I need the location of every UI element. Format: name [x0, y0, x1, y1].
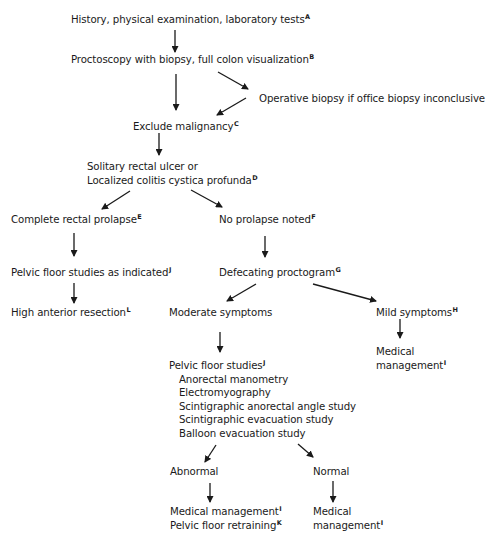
arrow-proctoscopy-to-operative [218, 72, 248, 89]
node-pelvic-floor-studies: Pelvic floor studiesJ Anorectal manometr… [169, 359, 356, 440]
node-label: Exclude malignancy [133, 121, 233, 132]
node-normal-outcome: Medical managementI [313, 505, 383, 532]
node-label: Operative biopsy if office biopsy inconc… [259, 93, 485, 104]
arrow-studies-to-abnormal [205, 445, 216, 462]
node-label: Normal [313, 466, 349, 477]
node-label: No prolapse noted [219, 214, 311, 225]
node-label: Defecating proctogram [219, 267, 335, 278]
arrow-proctogram-to-moderate [227, 284, 256, 301]
arrow-solitary-to-complete [102, 191, 130, 209]
node-moderate-symptoms: Moderate symptoms [169, 306, 272, 320]
arrow-operative-to-exclude [217, 98, 246, 115]
node-abnormal-outcome: Medical managementI Pelvic floor retrain… [170, 505, 282, 532]
footnote-marker: B [309, 53, 314, 61]
footnote-marker: L [126, 306, 130, 314]
footnote-marker: J [169, 266, 171, 274]
footnote-marker: D [252, 174, 257, 182]
node-label: Proctoscopy with biopsy, full colon visu… [71, 54, 309, 65]
node-history: History, physical examination, laborator… [71, 13, 310, 27]
footnote-marker: I [444, 359, 446, 367]
footnote-marker: G [336, 266, 341, 274]
node-operative-biopsy: Operative biopsy if office biopsy inconc… [259, 92, 485, 106]
node-normal: Normal [313, 465, 349, 479]
node-solitary-ulcer: Solitary rectal ulcer or Localized colit… [87, 160, 258, 187]
node-complete-prolapse: Complete rectal prolapseE [11, 213, 142, 227]
node-mild-symptoms: Mild symptomsH [376, 306, 458, 320]
study-item-electromyography: Electromyography [169, 386, 356, 400]
node-defecating-proctogram: Defecating proctogramG [219, 266, 341, 280]
node-abnormal: Abnormal [170, 465, 218, 479]
footnote-marker: A [305, 13, 310, 21]
node-label-line2: management [313, 520, 380, 531]
node-pelvic-floor-indicated: Pelvic floor studies as indicatedJ [11, 266, 171, 280]
footnote-marker: J [263, 359, 265, 367]
footnote-marker: I [381, 519, 383, 527]
node-label: Abnormal [170, 466, 218, 477]
node-no-prolapse: No prolapse notedF [219, 213, 316, 227]
footnote-marker: K [277, 519, 282, 527]
node-mild-medical-management: Medical managementI [376, 345, 446, 372]
node-label: History, physical examination, laborator… [71, 14, 305, 25]
node-label: Pelvic floor studies as indicated [11, 267, 168, 278]
study-item-anorectal-manometry: Anorectal manometry [169, 373, 356, 387]
study-item-balloon-evacuation: Balloon evacuation study [169, 427, 356, 441]
node-label: High anterior resection [11, 307, 126, 318]
node-label-line2: Localized colitis cystica profunda [87, 175, 252, 186]
arrow-proctogram-to-mild [313, 284, 376, 301]
footnote-marker: I [279, 505, 281, 513]
node-label-line1: Solitary rectal ulcer or [87, 160, 258, 174]
node-label: Pelvic floor studies [169, 360, 263, 371]
node-label: Moderate symptoms [169, 307, 272, 318]
node-high-anterior-resection: High anterior resectionL [11, 306, 130, 320]
node-label: Complete rectal prolapse [11, 214, 137, 225]
arrow-solitary-to-noprolapse [191, 190, 222, 207]
node-label-line2: Pelvic floor retraining [170, 520, 276, 531]
footnote-marker: E [137, 213, 141, 221]
study-item-scintigraphic-evacuation: Scintigraphic evacuation study [169, 413, 356, 427]
node-label-line1: Medical management [170, 506, 279, 517]
node-label-line1: Medical [313, 505, 383, 519]
node-label: Mild symptoms [376, 307, 452, 318]
node-proctoscopy: Proctoscopy with biopsy, full colon visu… [71, 53, 314, 67]
footnote-marker: F [311, 213, 315, 221]
node-label-line2: management [376, 360, 443, 371]
study-item-anorectal-angle: Scintigraphic anorectal angle study [169, 400, 356, 414]
footnote-marker: H [453, 306, 458, 314]
arrow-studies-to-normal [298, 444, 313, 457]
node-label-line1: Medical [376, 345, 446, 359]
footnote-marker: C [234, 120, 239, 128]
node-exclude-malignancy: Exclude malignancyC [133, 120, 239, 134]
